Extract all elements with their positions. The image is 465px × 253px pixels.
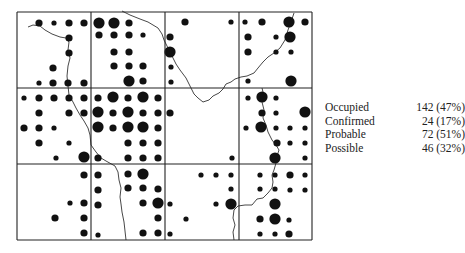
- dot-medium: [80, 79, 87, 86]
- map-grid: [17, 12, 312, 240]
- dot-medium: [35, 94, 42, 101]
- legend-value: 24 (17%): [405, 115, 465, 129]
- dot-small: [287, 187, 292, 192]
- dot-medium: [35, 19, 42, 26]
- legend: Occupied 142 (47%) Confirmed 24 (17%) Pr…: [325, 101, 465, 155]
- dot-small: [245, 95, 250, 100]
- river-line: [28, 25, 126, 240]
- dot-small: [228, 19, 233, 24]
- dot-large: [164, 46, 175, 57]
- dot-medium: [125, 62, 132, 69]
- dot-medium: [166, 109, 173, 116]
- dot-medium: [65, 109, 72, 116]
- dot-medium: [139, 77, 146, 84]
- legend-row-possible: Possible 46 (32%): [325, 142, 465, 156]
- dot-medium: [154, 154, 161, 161]
- dot-medium: [139, 229, 146, 236]
- dot-large: [92, 121, 103, 132]
- dot-medium: [94, 201, 101, 208]
- dot-large: [225, 198, 236, 209]
- legend-value: 46 (32%): [405, 142, 465, 156]
- dot-medium: [154, 109, 161, 116]
- dot-medium: [286, 171, 293, 178]
- dot-small: [257, 172, 262, 177]
- dot-medium: [80, 214, 87, 221]
- dot-medium: [35, 139, 42, 146]
- dot-medium: [273, 139, 280, 146]
- dot-small: [183, 216, 188, 221]
- dot-medium: [110, 48, 117, 55]
- dot-large: [92, 106, 103, 117]
- dot-medium: [51, 214, 58, 221]
- dot-medium: [80, 171, 87, 178]
- dot-small: [168, 79, 173, 84]
- dot-large: [269, 198, 280, 209]
- dot-medium: [124, 170, 131, 177]
- legend-label: Possible: [325, 142, 405, 156]
- dot-small: [66, 140, 71, 145]
- dot-small: [140, 32, 145, 37]
- dot-small: [273, 95, 278, 100]
- legend-value: 142 (47%): [405, 101, 465, 115]
- dot-medium: [124, 154, 131, 161]
- dot-medium: [166, 33, 173, 40]
- dot-medium: [181, 18, 188, 25]
- dot-small: [167, 231, 172, 236]
- dot-small: [228, 186, 233, 191]
- dot-medium: [110, 31, 117, 38]
- dot-medium: [35, 124, 42, 131]
- distribution-map: [0, 0, 320, 253]
- dot-medium: [125, 31, 132, 38]
- dot-medium: [244, 33, 251, 40]
- dot-large: [269, 152, 280, 163]
- dot-large: [269, 213, 280, 224]
- dot-medium: [65, 49, 72, 56]
- dot-medium: [285, 230, 292, 237]
- dot-large: [283, 16, 294, 27]
- legend-row-probable: Probable 72 (51%): [325, 128, 465, 142]
- dot-medium: [139, 62, 146, 69]
- dot-small: [21, 95, 26, 100]
- dot-large: [137, 121, 148, 132]
- dot-small: [228, 172, 233, 177]
- dot-small: [302, 125, 307, 130]
- dot-large: [93, 17, 104, 28]
- dot-small: [51, 20, 56, 25]
- dot-large: [123, 75, 134, 86]
- dot-medium: [154, 94, 161, 101]
- dot-small: [288, 49, 293, 54]
- dot-small: [213, 201, 218, 206]
- dot-medium: [49, 64, 56, 71]
- dot-large: [78, 151, 89, 162]
- dot-large: [137, 91, 148, 102]
- dot-medium: [139, 184, 146, 191]
- dot-medium: [65, 34, 72, 41]
- dot-medium: [109, 109, 116, 116]
- dot-medium: [125, 48, 132, 55]
- dot-medium: [110, 62, 117, 69]
- dot-medium: [49, 79, 56, 86]
- dot-medium: [80, 109, 87, 116]
- dot-medium: [154, 214, 161, 221]
- dot-large: [137, 168, 148, 179]
- dot-medium: [35, 109, 42, 116]
- dot-medium: [154, 229, 161, 236]
- dot-small: [51, 125, 56, 130]
- legend-label: Probable: [325, 128, 405, 142]
- dot-medium: [50, 94, 57, 101]
- dot-large: [255, 121, 266, 132]
- dot-small: [67, 200, 72, 205]
- dot-large: [284, 31, 295, 42]
- dot-small: [287, 140, 292, 145]
- dot-medium: [94, 171, 101, 178]
- dot-medium: [109, 124, 116, 131]
- dot-small: [302, 187, 307, 192]
- dot-small: [273, 49, 278, 54]
- dot-small: [273, 34, 278, 39]
- dot-small: [287, 125, 292, 130]
- dot-medium: [94, 186, 101, 193]
- dot-large: [299, 106, 310, 117]
- dot-large: [122, 106, 133, 117]
- legend-label: Occupied: [325, 101, 405, 115]
- dot-medium: [139, 154, 146, 161]
